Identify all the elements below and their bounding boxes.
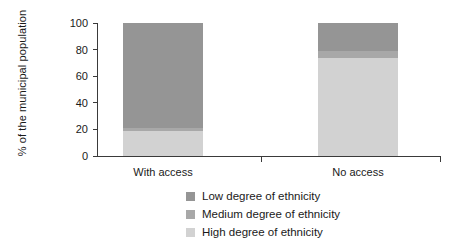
legend-label: Medium degree of ethnicity [202,206,340,222]
y-tick-label: 20 [48,121,88,137]
x-tick-label-with-access: With access [103,164,223,180]
bar-segment [123,128,203,131]
legend-item: Low degree of ethnicity [186,188,446,204]
legend-item: High degree of ethnicity [186,224,446,240]
plot-area [97,23,441,156]
x-axis-line [97,156,441,157]
legend-swatch-icon [186,210,195,219]
bar-segment [318,58,398,156]
legend-swatch-icon [186,192,195,201]
legend-label: Low degree of ethnicity [202,188,320,204]
stacked-bar-chart: % of the municipal population 0204060801… [0,0,476,246]
x-tick-mark [261,157,262,162]
y-tick-label: 40 [48,95,88,111]
bar-no-access [318,23,398,156]
bar-segment [318,51,398,58]
x-tick-label-no-access: No access [298,164,418,180]
x-tick-mark [440,157,441,162]
legend-swatch-icon [186,228,195,237]
bar-segment [123,23,203,128]
y-tick-label: 60 [48,68,88,84]
chart-legend: Low degree of ethnicityMedium degree of … [186,188,446,242]
bar-segment [123,131,203,156]
y-tick-label: 100 [48,15,88,31]
bar-with-access [123,23,203,156]
y-tick-label: 0 [48,148,88,164]
legend-label: High degree of ethnicity [202,224,323,240]
y-axis-label: % of the municipal population [14,0,30,168]
y-tick-label: 80 [48,42,88,58]
legend-item: Medium degree of ethnicity [186,206,446,222]
bar-segment [318,23,398,51]
